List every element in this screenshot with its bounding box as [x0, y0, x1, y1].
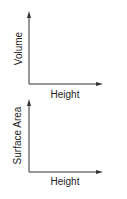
y-axis-label: Surface Area	[12, 105, 23, 167]
volume-vs-height-graph: Volume Height	[0, 0, 127, 100]
x-axis-label: Height	[45, 176, 85, 187]
surface-area-vs-height-graph: Surface Area Height	[0, 96, 127, 199]
y-axis-label: Volume	[13, 29, 24, 69]
x-arrow-icon	[96, 82, 103, 86]
y-arrow-icon	[27, 99, 31, 106]
y-arrow-icon	[27, 11, 31, 18]
x-arrow-icon	[96, 170, 103, 174]
